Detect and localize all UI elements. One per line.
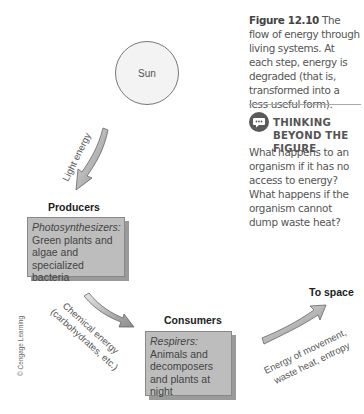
consumers-subtitle: Respirers: bbox=[150, 335, 198, 347]
caption-divider bbox=[249, 104, 361, 105]
copyright-credit: © Cengage Learning bbox=[17, 316, 24, 376]
speech-bubble-icon bbox=[249, 112, 269, 132]
consumers-body: Animals and decomposers and plants at ni… bbox=[150, 348, 213, 398]
consumers-box: Respirers: Animals and decomposers and p… bbox=[145, 331, 232, 396]
producers-subtitle: Photosynthesizers: bbox=[32, 221, 121, 233]
figure-label: Figure 12.10 bbox=[249, 14, 319, 26]
producers-title: Producers bbox=[48, 201, 100, 213]
to-space-label: To space bbox=[309, 286, 354, 298]
consumers-title: Consumers bbox=[164, 314, 222, 326]
producers-box: Photosynthesizers: Green plants and alga… bbox=[27, 217, 125, 277]
producers-body: Green plants and algae and specialized b… bbox=[32, 234, 113, 284]
figure-caption: Figure 12.10 The flow of energy through … bbox=[249, 13, 361, 111]
thinking-beyond-question: What happens to an organism if it has no… bbox=[249, 145, 363, 229]
caption-text: The flow of energy through living system… bbox=[249, 14, 360, 110]
